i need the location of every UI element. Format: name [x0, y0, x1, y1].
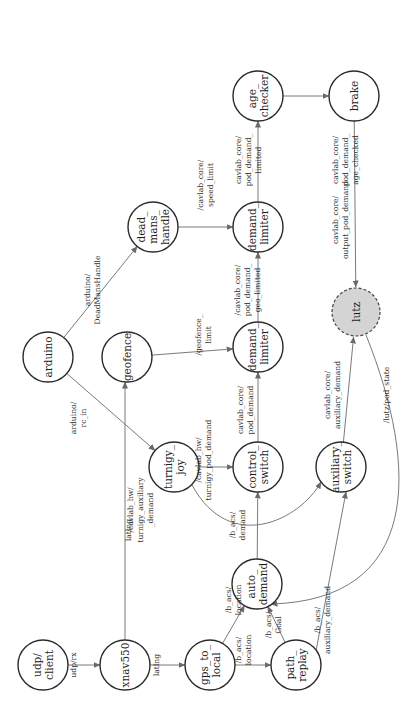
node-brake: brake — [329, 71, 379, 121]
edge-label: cavlab_core/output_pod_demand — [331, 181, 350, 259]
node-label: limiter — [258, 208, 270, 244]
edge-label-line: auxiliary_demand — [333, 361, 342, 429]
edge-label-line: turnigy_auxiliary — [136, 477, 145, 543]
edge-label: /b_acs/location — [224, 585, 243, 616]
edge-label-line: /b_acs/ — [228, 511, 237, 538]
edge-label-line: /cavlab_hw/ — [126, 487, 135, 533]
edge-label-line: arduino/ — [83, 273, 92, 306]
node-turnigy-joy: turnigy_joy — [149, 442, 199, 492]
edge-label: /cavlab_core/pod_demand_geo_limited — [233, 263, 262, 316]
ros-node-graph: udp/clientxnav550gps_to_localpath_replay… — [0, 0, 414, 727]
node-label: geofence — [121, 333, 133, 381]
edge-label: cavlab_core/pod_demand_limited — [234, 133, 263, 186]
node-auxiliary-switch: auxiliary_switch — [316, 441, 366, 493]
edge-label-line: cavlab_core/ — [331, 135, 340, 184]
node-demand-limiter-geo: demand_limiter — [233, 322, 283, 372]
node-age-checker: age_checker — [233, 71, 283, 121]
node-label: arduino — [42, 336, 54, 377]
node-label: brake — [348, 81, 360, 112]
edge-label-line: cavlab_core/ — [236, 385, 245, 434]
edge-label-line: /cavlab_core/ — [196, 159, 205, 210]
edge-label: cavlab_core/pod_demand — [236, 385, 255, 434]
edge-label-line: pod_demand_ — [341, 133, 350, 186]
edge-label-line: pod_demand_ — [243, 263, 252, 316]
edge-label-line: /b_acs/ — [313, 606, 322, 633]
edge-label-line: limit — [204, 326, 213, 344]
edge-label: arduino/DeadMansHandle — [83, 255, 102, 324]
node-label: local — [210, 652, 222, 678]
node-control-switch: control_switch — [233, 442, 283, 492]
edge-label-line: arduino/ — [69, 401, 78, 434]
node-label: handle — [159, 209, 171, 245]
edge-label-line: age_checked — [351, 135, 360, 185]
edge-label-line: output_pod_demand — [341, 181, 350, 259]
node-demand-limiter-speed: demand_limiter — [233, 202, 283, 252]
edge-label: /lutz/pod_state — [382, 366, 391, 423]
edge-label-line: Goal — [274, 616, 283, 634]
edge-label: latlng — [152, 654, 161, 676]
edge-label-line: /b_acs/ — [264, 611, 273, 638]
edge-label-line: speed_limit — [206, 163, 215, 207]
edge-geofence-to-demand-limiter-geo — [152, 349, 233, 355]
edge-label: /b_acs/demand — [228, 509, 247, 540]
edge-label: arduino/rc_in — [69, 401, 88, 434]
edge-label-line: _demand — [146, 493, 155, 528]
edge-label-line: /b_acs/ — [224, 586, 233, 613]
node-label: switch — [341, 449, 353, 484]
edge-label-line: /cavlab_hw/ — [194, 437, 203, 483]
edge-label-line: rc_in — [79, 408, 88, 427]
node-label: limiter — [258, 328, 270, 364]
edge-label: /cavlab_hw/turnigy_auxiliary_demand — [126, 477, 155, 543]
edge-label-line: limited — [254, 146, 263, 173]
edge-label-line: cavlab_core/ — [234, 135, 243, 184]
node-label: client — [43, 649, 55, 680]
edge-label-line: latlng — [152, 654, 161, 676]
edge-label-line: auxiliary_demand — [323, 586, 332, 654]
edge-label-line: /cavlab_core/ — [233, 264, 242, 315]
node-lutz: lutz — [332, 288, 380, 336]
node-label: replay — [296, 648, 308, 682]
node-label: joy — [174, 459, 186, 477]
edge-auto-demand-to-control-switch — [257, 492, 258, 559]
edge-label: /cavlab_hw/turnigy_pod_demand — [194, 419, 213, 500]
node-label: demand — [257, 562, 269, 605]
edge-label-line: location — [244, 635, 253, 666]
node-label: checker — [258, 74, 270, 117]
edge-label-line: /lutz/pod_state — [382, 366, 391, 423]
node-label: lutz — [350, 302, 362, 322]
node-arduino: arduino — [23, 332, 73, 382]
node-geofence: geofence — [102, 332, 152, 382]
edge-label-line: cavlab_core/ — [331, 195, 340, 244]
node-label: udp/ — [31, 653, 43, 677]
edge-auxiliary-switch-to-lutz — [343, 337, 353, 442]
edge-label: udp/rx — [69, 652, 78, 678]
node-gps-to-local: gps_to_local — [185, 640, 235, 690]
node-xnav550: xnav550 — [100, 640, 150, 690]
edge-label: cavlab_core/pod_demand_age_checked — [331, 133, 360, 186]
node-path-replay: path_replay — [271, 640, 321, 690]
node-udp-client: udp/client — [18, 640, 68, 690]
edge-label-line: /b_acs/ — [234, 636, 243, 663]
edge-label-line: /geofence_ — [194, 314, 203, 355]
edge-label: /b_acs/auxiliary_demand — [313, 586, 332, 654]
node-label: switch — [258, 449, 270, 484]
node-label: xnav550 — [119, 643, 131, 688]
edge-label-line: geo_limited — [253, 268, 262, 313]
edge-label-line: udp/rx — [69, 652, 78, 678]
edge-label: /geofence_limit — [194, 314, 213, 355]
edge-label: /b_acs/location — [234, 635, 253, 666]
edge-label-line: pod_demand_ — [244, 133, 253, 186]
edge-label: /b_acs/Goal — [264, 611, 283, 638]
edge-label-line: DeadMansHandle — [93, 255, 102, 324]
edge-label-line: demand — [238, 509, 247, 540]
edge-label-line: turnigy_pod_demand — [204, 419, 213, 500]
edge-label-line: location — [234, 585, 243, 616]
edge-label-line: cavlab_core/ — [323, 370, 332, 419]
edge-label: cavlab_core/auxiliary_demand — [323, 361, 342, 429]
edge-label: /cavlab_core/speed_limit — [196, 159, 215, 210]
node-dead-mans-handle: dead_mans_handle — [128, 202, 178, 252]
edge-label-line: pod_demand — [246, 385, 255, 434]
